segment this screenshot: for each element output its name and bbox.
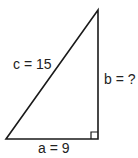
right-triangle [6,10,98,139]
right-angle-marker [91,132,98,139]
triangle-diagram: c = 15 b = ? a = 9 [0,0,138,158]
base-leg-label: a = 9 [38,140,70,156]
vertical-leg-label: b = ? [104,71,136,87]
hypotenuse-label: c = 15 [13,56,52,72]
